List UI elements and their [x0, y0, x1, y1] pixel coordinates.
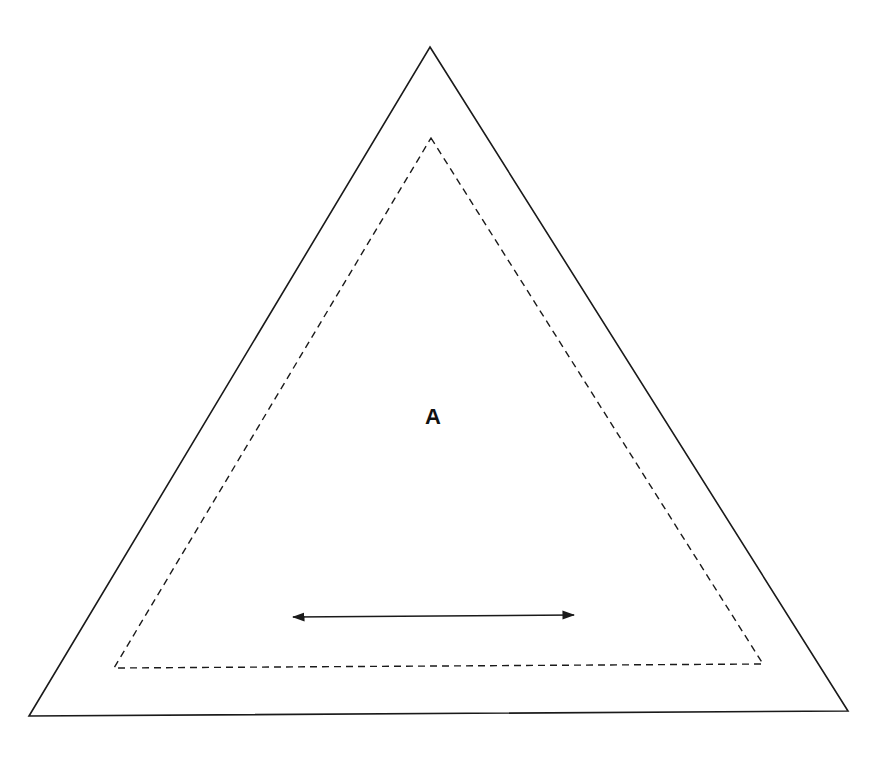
diagram-canvas: A [0, 0, 888, 758]
double-headed-arrow [293, 615, 574, 617]
inner-dashed-triangle [114, 138, 763, 668]
region-label-a: A [425, 404, 441, 429]
